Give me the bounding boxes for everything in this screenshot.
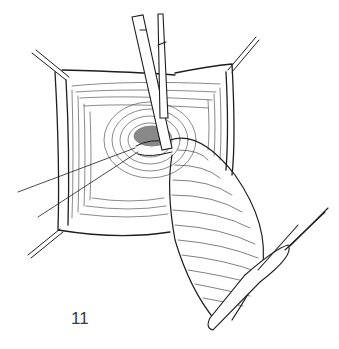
stay-suture-bottom-left [28, 229, 63, 258]
tip-clamp [208, 208, 328, 330]
surgical-illustration: 11 [0, 0, 339, 349]
figure-number: 11 [71, 309, 89, 329]
stay-suture-top-left [32, 50, 69, 80]
straight-clamp [158, 14, 168, 118]
tissue-striations [72, 82, 221, 218]
illustration-drawing [0, 0, 339, 349]
